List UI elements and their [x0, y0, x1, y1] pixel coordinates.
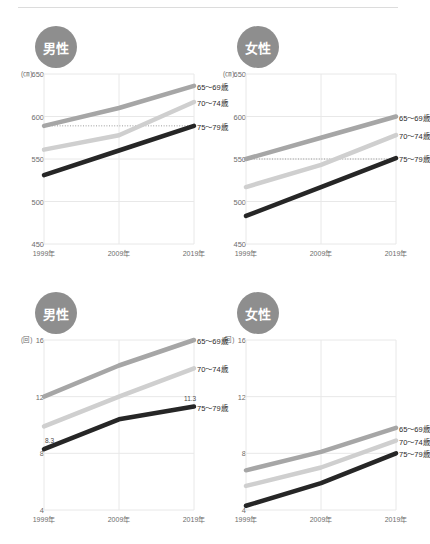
- panel-female-height: 女性 (㎝) 450500550600650 1999年2009年2019年 6…: [204, 12, 409, 278]
- plot-female-height: [246, 74, 396, 244]
- series-legend-label: 65〜69歳: [197, 80, 228, 91]
- series-legend-label: 65〜69歳: [399, 111, 430, 122]
- series-legend-label: 65〜69歳: [197, 335, 228, 346]
- y-axis-tick-label: 550: [31, 155, 44, 164]
- x-axis-tick-label: 1999年: [235, 514, 258, 524]
- y-axis-tick-label: 500: [233, 197, 246, 206]
- plot-female-count: [246, 340, 396, 510]
- y-axis-labels-male-height: 450500550600650: [18, 74, 44, 244]
- y-axis-tick-label: 12: [238, 392, 246, 401]
- y-axis-tick-label: 650: [31, 70, 44, 79]
- gender-badge-male-height: 男性: [35, 26, 77, 68]
- x-axis-labels-female-count: 1999年2009年2019年: [246, 514, 396, 528]
- series-legend-label: 75〜79歳: [197, 401, 228, 412]
- x-axis-tick-label: 1999年: [33, 248, 56, 258]
- x-axis-labels-male-height: 1999年2009年2019年: [44, 248, 194, 262]
- series-legend-label: 70〜74歳: [399, 435, 430, 446]
- data-point-label: 11.3: [184, 395, 196, 402]
- x-axis-tick-label: 2019年: [183, 248, 206, 258]
- y-axis-tick-label: 600: [31, 112, 44, 121]
- x-axis-tick-label: 2009年: [310, 514, 333, 524]
- y-axis-tick-label: 16: [238, 336, 246, 345]
- x-axis-tick-label: 2019年: [385, 514, 408, 524]
- y-axis-unit-male-height: (㎝): [21, 68, 32, 78]
- series-legend-label: 75〜79歳: [399, 153, 430, 164]
- y-axis-labels-male-count: 481216: [18, 340, 44, 510]
- top-divider: [18, 7, 398, 8]
- panel-female-count: 女性 (回) 481216 1999年2009年2019年 65〜69歳70〜7…: [204, 278, 409, 544]
- panel-male-height: 男性 (㎝) 450500550600650 1999年2009年2019年 6…: [0, 12, 204, 278]
- x-axis-tick-label: 2009年: [310, 248, 333, 258]
- x-axis-tick-label: 2009年: [108, 514, 131, 524]
- y-axis-tick-label: 500: [31, 197, 44, 206]
- plot-male-height: [44, 74, 194, 244]
- y-axis-unit-male-count: (回): [21, 334, 32, 344]
- series-legend-label: 75〜79歳: [399, 448, 430, 459]
- series-legend-label: 70〜74歳: [399, 130, 430, 141]
- data-point-label: 8.3: [45, 437, 54, 444]
- plot-male-count: [44, 340, 194, 510]
- x-axis-tick-label: 2019年: [385, 248, 408, 258]
- x-axis-tick-label: 2009年: [108, 248, 131, 258]
- y-axis-tick-label: 16: [36, 336, 44, 345]
- series-legend-label: 70〜74歳: [197, 363, 228, 374]
- x-axis-tick-label: 2019年: [183, 514, 206, 524]
- gender-badge-male-count: 男性: [35, 292, 77, 334]
- x-axis-labels-male-count: 1999年2009年2019年: [44, 514, 194, 528]
- y-axis-unit-female-height: (㎝): [223, 68, 234, 78]
- y-axis-tick-label: 600: [233, 112, 246, 121]
- series-legend-label: 65〜69歳: [399, 422, 430, 433]
- series-legend-label: 75〜79歳: [197, 120, 228, 131]
- gender-badge-female-count: 女性: [237, 292, 279, 334]
- chart-grid: 男性 (㎝) 450500550600650 1999年2009年2019年 6…: [0, 12, 409, 544]
- x-axis-tick-label: 1999年: [235, 248, 258, 258]
- y-axis-tick-label: 650: [233, 70, 246, 79]
- x-axis-labels-female-height: 1999年2009年2019年: [246, 248, 396, 262]
- panel-male-count: 男性 (回) 481216 1999年2009年2019年 65〜69歳70〜7…: [0, 278, 204, 544]
- gender-badge-female-height: 女性: [237, 26, 279, 68]
- x-axis-tick-label: 1999年: [33, 514, 56, 524]
- series-legend-label: 70〜74歳: [197, 97, 228, 108]
